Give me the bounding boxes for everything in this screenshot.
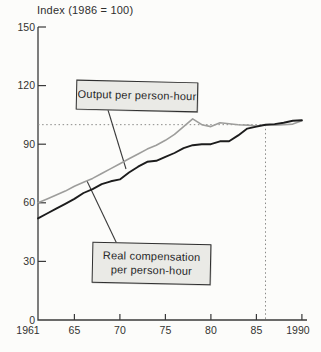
x-tick-label-1985: 85 <box>251 324 263 336</box>
x-tick-label-1980: 80 <box>205 324 217 336</box>
series-line-output-per-person-hour <box>38 120 302 218</box>
plot-area: 0306090120150196165707580851990 <box>0 0 321 352</box>
output-callout-line <box>108 110 126 169</box>
y-tick-label-150: 150 <box>17 21 35 33</box>
x-tick-label-1970: 70 <box>114 324 126 336</box>
x-tick-label-1975: 75 <box>160 324 172 336</box>
x-tick-label-1965: 65 <box>69 324 81 336</box>
compensation-annotation-box: Real compensation per person-hour <box>92 242 212 285</box>
productivity-vs-compensation-chart: Index (1986 = 100) 030609012015019616570… <box>0 0 321 352</box>
series-line-real-compensation-per-person-hour <box>38 119 302 203</box>
compensation-annotation-label: Real compensation per person-hour <box>102 249 200 279</box>
y-tick-label-90: 90 <box>23 138 35 150</box>
x-tick-label-1990: 1990 <box>286 324 310 336</box>
y-tick-label-120: 120 <box>17 79 35 91</box>
output-annotation-label: Output per person-hour <box>77 88 196 104</box>
x-tick-label-1961: 1961 <box>16 324 40 336</box>
compensation-annotation-line1: Real compensation <box>103 249 201 263</box>
compensation-annotation-line2: per person-hour <box>111 263 193 277</box>
y-tick-label-30: 30 <box>23 255 35 267</box>
y-tick-label-60: 60 <box>23 196 35 208</box>
output-annotation-box: Output per person-hour <box>76 80 199 113</box>
